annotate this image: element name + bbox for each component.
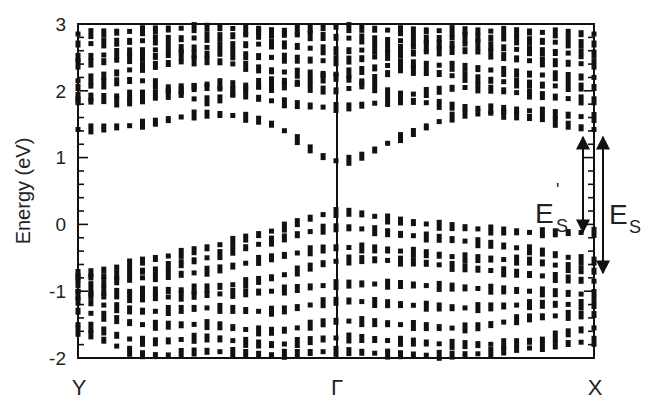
es-label: E [609, 199, 628, 230]
ytick-label-3: 3 [55, 14, 66, 35]
es-prime-mark: ' [556, 180, 559, 200]
ytick-label-neg1: -1 [49, 281, 66, 302]
es-prime-subscript: S [556, 216, 568, 236]
ytick-label-1: 1 [55, 147, 66, 168]
es-subscript: S [629, 217, 641, 237]
ytick-label-0: 0 [55, 214, 66, 235]
band-structure-chart: 3 2 1 0 -1 -2 Energy (eV) Y Γ X E ' S E … [0, 0, 651, 412]
kpoint-label-x: X [588, 375, 603, 400]
es-prime-label: E [535, 198, 554, 229]
ytick-label-2: 2 [55, 81, 66, 102]
y-axis-title: Energy (eV) [12, 138, 34, 245]
kpoint-label-y: Y [72, 375, 87, 400]
kpoint-label-gamma: Γ [331, 375, 343, 400]
ytick-label-neg2: -2 [49, 348, 66, 369]
